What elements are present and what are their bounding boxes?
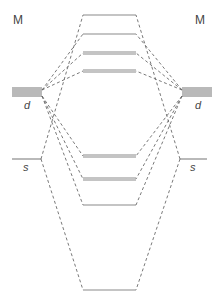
right-atom-label: M xyxy=(195,13,205,27)
left-d-label: d xyxy=(24,99,31,111)
right-d-label: d xyxy=(195,99,202,111)
right-s-label: s xyxy=(190,161,196,173)
right-d-levels xyxy=(182,88,212,96)
left-d-levels xyxy=(12,88,42,96)
left-connectors xyxy=(41,15,83,290)
mo-diagram: M M d d s s xyxy=(0,0,224,307)
left-s-label: s xyxy=(23,161,29,173)
mo-levels xyxy=(83,15,136,290)
right-connectors xyxy=(136,15,182,290)
left-atom-label: M xyxy=(13,13,23,27)
